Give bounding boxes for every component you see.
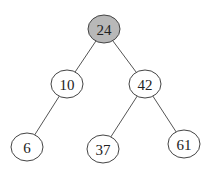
- node-label: 42: [138, 77, 153, 93]
- tree-diagram: 24104263761: [0, 0, 211, 172]
- tree-node-6: 6: [11, 133, 43, 161]
- nodes-layer: 24104263761: [11, 15, 200, 163]
- tree-node-42: 42: [129, 70, 161, 98]
- node-label: 10: [60, 77, 75, 93]
- tree-node-61: 61: [168, 130, 200, 158]
- tree-node-24: 24: [88, 15, 120, 43]
- tree-node-37: 37: [87, 135, 119, 163]
- tree-node-10: 10: [51, 70, 83, 98]
- node-label: 24: [97, 22, 113, 38]
- node-label: 6: [23, 140, 31, 156]
- tree-svg: 24104263761: [0, 0, 211, 172]
- node-label: 61: [177, 137, 192, 153]
- node-label: 37: [96, 142, 112, 158]
